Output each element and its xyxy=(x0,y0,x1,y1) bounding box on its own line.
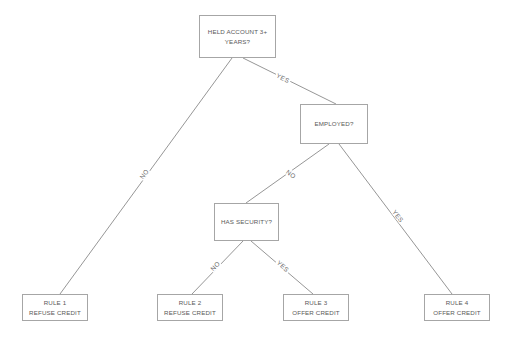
node-label-root: HELD ACCOUNT 3+ YEARS? xyxy=(206,27,269,46)
node-label-security: HAS SECURITY? xyxy=(219,217,274,227)
decision-tree-diagram: HELD ACCOUNT 3+ YEARS?EMPLOYED?HAS SECUR… xyxy=(0,0,509,338)
node-rule3[interactable]: RULE 3 OFFER CREDIT xyxy=(283,294,349,321)
node-label-rule4: RULE 4 OFFER CREDIT xyxy=(431,298,483,317)
node-security[interactable]: HAS SECURITY? xyxy=(214,203,279,241)
node-label-rule2: RULE 2 REFUSE CREDIT xyxy=(162,298,218,317)
node-employed[interactable]: EMPLOYED? xyxy=(300,104,368,144)
node-label-rule3: RULE 3 OFFER CREDIT xyxy=(290,298,342,317)
node-rule1[interactable]: RULE 1 REFUSE CREDIT xyxy=(22,294,88,321)
node-rule2[interactable]: RULE 2 REFUSE CREDIT xyxy=(157,294,223,321)
node-label-rule1: RULE 1 REFUSE CREDIT xyxy=(27,298,83,317)
node-label-employed: EMPLOYED? xyxy=(312,119,355,129)
node-root[interactable]: HELD ACCOUNT 3+ YEARS? xyxy=(199,15,276,58)
node-rule4[interactable]: RULE 4 OFFER CREDIT xyxy=(424,294,490,321)
